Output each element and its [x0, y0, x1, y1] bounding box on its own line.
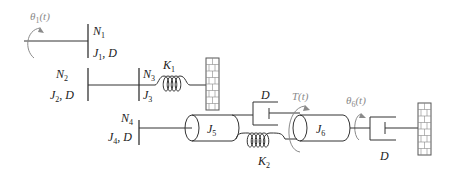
n3-label: N3	[142, 67, 155, 83]
ground-wall-k1	[206, 58, 219, 110]
k1-label: K1	[162, 58, 175, 74]
d-mid-label: D	[260, 88, 270, 102]
j1d-label: J1, D	[93, 46, 117, 62]
ground-wall-right	[418, 103, 431, 155]
j3-label: J3	[143, 88, 152, 104]
n4-label: N4	[120, 111, 133, 127]
k2-label: K2	[257, 154, 270, 170]
n2-label: N2	[55, 67, 68, 83]
j4d-label: J4, D	[108, 130, 132, 146]
n1-label: N1	[92, 24, 105, 40]
theta6-arrow-icon	[355, 113, 366, 140]
damper-d-right-icon	[370, 117, 418, 140]
theta1-label: θ1(t)	[30, 10, 50, 25]
d-right-label: D	[379, 149, 389, 163]
rotational-system-diagram: θ1(t) N1 J1, D N2 J2, D N3 J3 K1 N4 J4, …	[0, 0, 453, 174]
spring-k2-icon	[236, 133, 297, 147]
j5-label: J5	[207, 122, 216, 138]
torque-label: T(t)	[292, 90, 309, 103]
theta1-arrow-icon	[28, 27, 44, 58]
theta6-label: θ6(t)	[346, 94, 366, 109]
j2d-label: J2, D	[50, 88, 74, 104]
j6-label: J6	[316, 122, 325, 138]
